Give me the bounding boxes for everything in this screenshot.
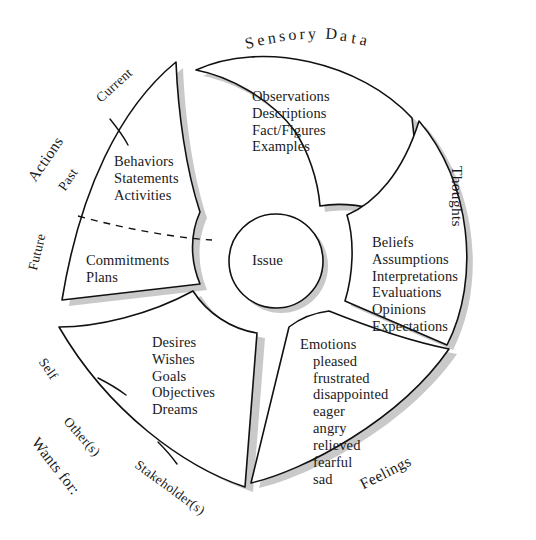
list-item: eager [300,403,388,420]
list-item: Statements [114,170,179,187]
list-item: Dreams [152,401,215,418]
list-item: Expectations [372,318,458,335]
list-heading: Emotions [300,336,388,353]
list-item: fearful [300,454,388,471]
list-item: disappointed [300,386,388,403]
thoughts-item-list: Beliefs Assumptions Interpretations Eval… [372,234,458,335]
list-item: Evaluations [372,284,458,301]
list-item: Descriptions [252,105,330,122]
list-item: frustrated [300,370,388,387]
sensory-item-list: Observations Descriptions Fact/Figures E… [252,88,330,155]
actions-lower-item-list: Commitments Plans [86,252,169,286]
list-item: Plans [86,269,169,286]
list-item: Activities [114,187,179,204]
hub-label: Issue [252,252,283,269]
thoughts-category-label: Thoughts [448,166,466,227]
list-item: Interpretations [372,268,458,285]
list-item: relieved [300,437,388,454]
list-item: Goals [152,368,215,385]
feelings-item-list: Emotions pleased frustrated disappointed… [300,336,388,487]
list-item: sad [300,471,388,488]
list-item: angry [300,420,388,437]
list-item: Opinions [372,301,458,318]
actions-upper-item-list: Behaviors Statements Activities [114,153,179,203]
list-item: Assumptions [372,251,458,268]
list-item: Beliefs [372,234,458,251]
list-item: Objectives [152,384,215,401]
list-item: Commitments [86,252,169,269]
list-item: Observations [252,88,330,105]
list-item: Behaviors [114,153,179,170]
list-item: Desires [152,334,215,351]
list-item: Examples [252,138,330,155]
list-item: pleased [300,353,388,370]
issue-wheel-diagram: Issue S e n s o r y D a t a Observations… [0,0,536,540]
wants-item-list: Desires Wishes Goals Objectives Dreams [152,334,215,418]
list-item: Fact/Figures [252,122,330,139]
list-item: Wishes [152,351,215,368]
